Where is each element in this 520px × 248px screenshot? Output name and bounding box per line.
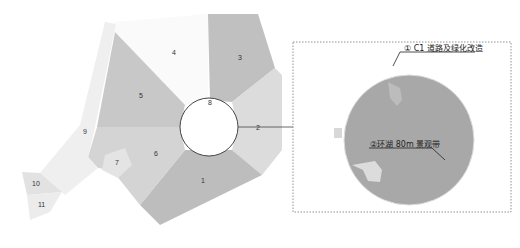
zone-label-3: 3 <box>238 54 242 61</box>
callout-2-text: ②环湖 80m 景观带 <box>370 138 440 149</box>
lake-focus-circle <box>180 98 238 156</box>
zone-label-2: 2 <box>256 124 260 131</box>
zone-label-11: 11 <box>38 201 45 208</box>
site-zoning-diagram: 1 2 3 4 5 6 7 8 9 10 11 <box>0 0 520 248</box>
detail-building <box>334 128 342 138</box>
zone-label-1: 1 <box>201 177 205 184</box>
zone-label-7: 7 <box>115 159 119 166</box>
zone-label-5: 5 <box>139 92 143 99</box>
zone-label-9: 9 <box>83 128 87 135</box>
zone-label-6: 6 <box>154 150 158 157</box>
callout-1-text: ① C1 道路及绿化改造 <box>404 42 483 53</box>
zone-label-10: 10 <box>32 180 40 187</box>
zone-label-4: 4 <box>172 49 176 56</box>
zone-label-8: 8 <box>208 99 212 106</box>
